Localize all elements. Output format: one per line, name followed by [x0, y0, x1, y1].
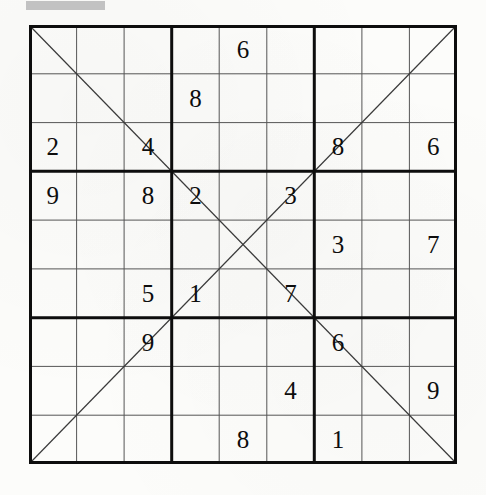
sudoku-clue-cell-r3-c7[interactable]: 8 [314, 123, 362, 172]
sudoku-empty-cell-r2-c1[interactable] [29, 74, 77, 123]
sudoku-empty-cell-r1-c6[interactable] [267, 25, 315, 74]
sudoku-clue-cell-r9-c7[interactable]: 1 [314, 415, 362, 464]
sudoku-empty-cell-r4-c2[interactable] [77, 171, 125, 220]
sudoku-page: 682486982337517964981 [0, 0, 486, 495]
sudoku-empty-cell-r4-c9[interactable] [409, 171, 457, 220]
sudoku-clue-cell-r4-c3[interactable]: 8 [124, 171, 172, 220]
sudoku-empty-cell-r6-c1[interactable] [29, 269, 77, 318]
sudoku-empty-cell-r2-c7[interactable] [314, 74, 362, 123]
sudoku-empty-cell-r5-c1[interactable] [29, 220, 77, 269]
sudoku-clue-cell-r4-c1[interactable]: 9 [29, 171, 77, 220]
sudoku-clue-cell-r4-c6[interactable]: 3 [267, 171, 315, 220]
sudoku-empty-cell-r8-c3[interactable] [124, 366, 172, 415]
sudoku-empty-cell-r9-c4[interactable] [172, 415, 220, 464]
sudoku-empty-cell-r2-c5[interactable] [219, 74, 267, 123]
sudoku-empty-cell-r2-c3[interactable] [124, 74, 172, 123]
sudoku-empty-cell-r4-c8[interactable] [362, 171, 410, 220]
sudoku-clue-cell-r7-c7[interactable]: 6 [314, 318, 362, 367]
sudoku-clue-cell-r2-c4[interactable]: 8 [172, 74, 220, 123]
sudoku-clue-cell-r6-c6[interactable]: 7 [267, 269, 315, 318]
sudoku-empty-cell-r5-c2[interactable] [77, 220, 125, 269]
sudoku-empty-cell-r1-c8[interactable] [362, 25, 410, 74]
sudoku-clue-cell-r8-c9[interactable]: 9 [409, 366, 457, 415]
sudoku-empty-cell-r4-c5[interactable] [219, 171, 267, 220]
sudoku-clue-cell-r5-c7[interactable]: 3 [314, 220, 362, 269]
sudoku-empty-cell-r9-c2[interactable] [77, 415, 125, 464]
sudoku-empty-cell-r6-c9[interactable] [409, 269, 457, 318]
sudoku-empty-cell-r8-c8[interactable] [362, 366, 410, 415]
sudoku-empty-cell-r8-c1[interactable] [29, 366, 77, 415]
sudoku-empty-cell-r7-c8[interactable] [362, 318, 410, 367]
sudoku-empty-cell-r9-c1[interactable] [29, 415, 77, 464]
sudoku-empty-cell-r6-c7[interactable] [314, 269, 362, 318]
sudoku-empty-cell-r7-c1[interactable] [29, 318, 77, 367]
sudoku-empty-cell-r9-c8[interactable] [362, 415, 410, 464]
sudoku-empty-cell-r3-c8[interactable] [362, 123, 410, 172]
sudoku-empty-cell-r2-c9[interactable] [409, 74, 457, 123]
sudoku-empty-cell-r4-c7[interactable] [314, 171, 362, 220]
sudoku-empty-cell-r9-c6[interactable] [267, 415, 315, 464]
sudoku-empty-cell-r5-c8[interactable] [362, 220, 410, 269]
sudoku-empty-cell-r3-c6[interactable] [267, 123, 315, 172]
cell-layer: 682486982337517964981 [29, 25, 457, 464]
sudoku-empty-cell-r1-c7[interactable] [314, 25, 362, 74]
sudoku-empty-cell-r9-c9[interactable] [409, 415, 457, 464]
sudoku-clue-cell-r3-c1[interactable]: 2 [29, 123, 77, 172]
sudoku-empty-cell-r3-c2[interactable] [77, 123, 125, 172]
sudoku-empty-cell-r7-c6[interactable] [267, 318, 315, 367]
sudoku-empty-cell-r1-c1[interactable] [29, 25, 77, 74]
sudoku-empty-cell-r1-c9[interactable] [409, 25, 457, 74]
sudoku-empty-cell-r1-c2[interactable] [77, 25, 125, 74]
sudoku-empty-cell-r3-c5[interactable] [219, 123, 267, 172]
sudoku-empty-cell-r1-c3[interactable] [124, 25, 172, 74]
sudoku-empty-cell-r5-c6[interactable] [267, 220, 315, 269]
sudoku-empty-cell-r6-c8[interactable] [362, 269, 410, 318]
sudoku-clue-cell-r3-c3[interactable]: 4 [124, 123, 172, 172]
sudoku-empty-cell-r2-c8[interactable] [362, 74, 410, 123]
sudoku-clue-cell-r9-c5[interactable]: 8 [219, 415, 267, 464]
redaction-mark [26, 1, 105, 10]
sudoku-grid[interactable]: 682486982337517964981 [29, 25, 457, 464]
sudoku-empty-cell-r2-c6[interactable] [267, 74, 315, 123]
sudoku-empty-cell-r8-c4[interactable] [172, 366, 220, 415]
sudoku-empty-cell-r7-c2[interactable] [77, 318, 125, 367]
sudoku-empty-cell-r8-c2[interactable] [77, 366, 125, 415]
sudoku-empty-cell-r7-c9[interactable] [409, 318, 457, 367]
sudoku-empty-cell-r3-c4[interactable] [172, 123, 220, 172]
sudoku-empty-cell-r1-c4[interactable] [172, 25, 220, 74]
sudoku-empty-cell-r2-c2[interactable] [77, 74, 125, 123]
sudoku-empty-cell-r5-c3[interactable] [124, 220, 172, 269]
sudoku-empty-cell-r5-c4[interactable] [172, 220, 220, 269]
sudoku-clue-cell-r8-c6[interactable]: 4 [267, 366, 315, 415]
sudoku-clue-cell-r4-c4[interactable]: 2 [172, 171, 220, 220]
sudoku-empty-cell-r7-c5[interactable] [219, 318, 267, 367]
sudoku-clue-cell-r1-c5[interactable]: 6 [219, 25, 267, 74]
sudoku-empty-cell-r9-c3[interactable] [124, 415, 172, 464]
sudoku-empty-cell-r6-c2[interactable] [77, 269, 125, 318]
sudoku-clue-cell-r5-c9[interactable]: 7 [409, 220, 457, 269]
sudoku-empty-cell-r6-c5[interactable] [219, 269, 267, 318]
sudoku-empty-cell-r5-c5[interactable] [219, 220, 267, 269]
sudoku-empty-cell-r8-c7[interactable] [314, 366, 362, 415]
sudoku-clue-cell-r3-c9[interactable]: 6 [409, 123, 457, 172]
sudoku-empty-cell-r7-c4[interactable] [172, 318, 220, 367]
sudoku-clue-cell-r6-c4[interactable]: 1 [172, 269, 220, 318]
sudoku-clue-cell-r7-c3[interactable]: 9 [124, 318, 172, 367]
sudoku-empty-cell-r8-c5[interactable] [219, 366, 267, 415]
sudoku-clue-cell-r6-c3[interactable]: 5 [124, 269, 172, 318]
